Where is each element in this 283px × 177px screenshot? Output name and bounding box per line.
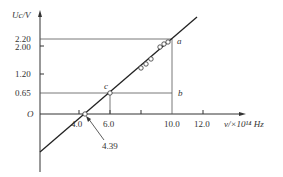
svg-text:10.0: 10.0 xyxy=(164,119,180,129)
svg-text:2.00: 2.00 xyxy=(15,42,31,52)
svg-text:0.65: 0.65 xyxy=(15,88,31,98)
svg-text:1.20: 1.20 xyxy=(15,69,31,79)
y-axis-label: Uc/V xyxy=(12,10,32,20)
photoelectric-chart: Uc/V 2.20 2.00 1.20 0.65 O 4.0 6.0 10.0 … xyxy=(0,0,283,177)
origin-label: O xyxy=(27,109,34,119)
x-axis-label: ν/×10¹⁴ Hz xyxy=(224,119,264,129)
x-axis-arrow-icon xyxy=(239,112,246,116)
fit-line xyxy=(40,17,197,152)
svg-text:6.0: 6.0 xyxy=(103,119,115,129)
y-axis-arrow-icon xyxy=(38,10,42,17)
svg-text:c: c xyxy=(104,81,108,91)
intercept-label: 4.39 xyxy=(102,141,118,151)
svg-text:b: b xyxy=(178,88,183,98)
svg-text:4.0: 4.0 xyxy=(71,119,83,129)
svg-text:a: a xyxy=(177,36,182,46)
svg-text:12.0: 12.0 xyxy=(194,119,210,129)
